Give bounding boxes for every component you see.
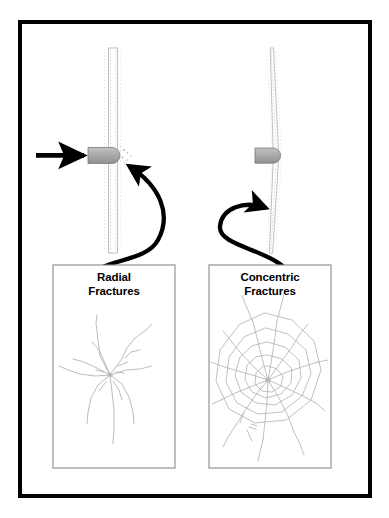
fracture-diagram-svg — [0, 0, 389, 518]
radial-panel-caption: Radial Fractures — [56, 271, 172, 298]
bullet-right — [255, 148, 281, 163]
figure-root: Radial Fractures Concentric Fractures — [0, 0, 389, 518]
concentric-panel-caption: Concentric Fractures — [211, 271, 329, 298]
bullet-left — [88, 148, 120, 164]
